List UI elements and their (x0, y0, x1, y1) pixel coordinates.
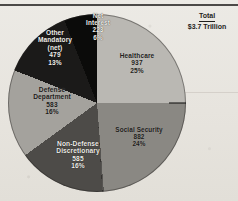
slice-percent: 16% (18, 108, 86, 115)
total-callout: Total $3.7 Trillion (178, 12, 236, 32)
total-label: Total (199, 12, 215, 22)
slice-label-healthcare: Healthcare 937 25% (108, 52, 166, 74)
slice-percent: 16% (44, 162, 112, 169)
slice-label-defense-department: Defense Department 583 16% (18, 86, 86, 116)
total-value: $3.7 Trillion (178, 23, 236, 32)
slice-percent: 25% (108, 67, 166, 74)
pie-chart-figure: Net Interest 223 6% Other Mandatory (net… (0, 0, 238, 201)
slice-percent: 13% (24, 59, 86, 66)
slice-label-other-mandatory: Other Mandatory (net) 479 13% (24, 29, 86, 66)
slice-label-non-defense-discretionary: Non-Defense Discretionary 585 16% (44, 140, 112, 170)
slice-label-line: Department (18, 93, 86, 100)
slice-label-line: Mandatory (24, 36, 86, 43)
slice-percent: 24% (106, 140, 172, 147)
slice-value: 479 (24, 51, 86, 58)
slice-label-line: Discretionary (44, 147, 112, 154)
slice-label-social-security: Social Security 882 24% (106, 126, 172, 148)
slice-value: 937 (108, 59, 166, 66)
